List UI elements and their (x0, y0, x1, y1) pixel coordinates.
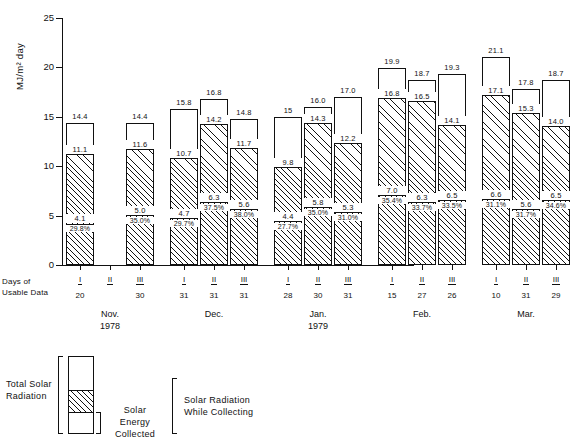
bar-label-total: 18.7 (539, 69, 573, 78)
bar-label-collecting: 17.1 (482, 86, 510, 95)
x-label-days: 31 (512, 291, 540, 300)
bar-label-percent: 35.0% (304, 209, 332, 216)
y-tick-label-20: 20 (18, 61, 54, 72)
bar-Mar-III (542, 80, 570, 265)
bar-label-total: 14.4 (123, 112, 157, 121)
x-label-days: 30 (126, 291, 154, 300)
bar-label-collecting: 11.1 (66, 145, 94, 154)
x-label-days: 20 (66, 291, 94, 300)
bar-label-percent: 31.0% (334, 214, 362, 221)
bar-label-total: 21.1 (479, 46, 513, 55)
bar-Dec-I (170, 109, 198, 265)
bar-Mar-II (512, 89, 540, 265)
x-tick (288, 265, 289, 270)
x-label-period-II: II (96, 275, 124, 284)
bar-label-collected: 6.3 (200, 193, 228, 202)
x-label-period-III: III (438, 275, 466, 284)
bar-segment-energy-collected (409, 202, 435, 264)
legend-hatch-segment (69, 390, 93, 413)
x-tick (214, 265, 215, 270)
bar-label-percent: 38.0% (230, 211, 258, 218)
y-axis-line (62, 18, 63, 265)
bar-label-collected: 4.7 (170, 209, 198, 218)
bar-label-collecting: 14.1 (438, 116, 466, 125)
legend-while-line-2: While Collecting (184, 406, 314, 418)
bar-label-collected: 6.5 (542, 191, 570, 200)
bar-label-percent: 35.4% (378, 197, 406, 204)
bar-label-collected: 6.3 (408, 193, 436, 202)
bar-Dec-II (200, 99, 228, 265)
bar-segment-energy-collected (379, 195, 405, 264)
y-tick-label-0: 0 (18, 259, 54, 270)
x-label-period-I: I (378, 275, 406, 284)
legend: Total Solar Radiation Solar Energy Colle… (0, 350, 431, 442)
x-label-period-III: III (230, 275, 258, 284)
legend-brace-total (58, 356, 63, 434)
bar-label-total: 15.8 (167, 98, 201, 107)
bar-label-collecting: 12.2 (334, 134, 362, 143)
x-label-period-I: I (66, 275, 94, 284)
x-label-period-II: II (408, 275, 436, 284)
bar-label-collecting: 11.7 (230, 139, 258, 148)
legend-total-line-2: Radiation (6, 390, 58, 402)
bar-label-collected: 5.6 (512, 200, 540, 209)
x-label-period-I: I (482, 275, 510, 284)
x-label-month-Mar: Mar. (486, 309, 566, 319)
bar-label-percent: 29.8% (66, 225, 94, 232)
legend-total-label: Total Solar Radiation (6, 378, 58, 402)
x-label-period-III: III (126, 275, 154, 284)
x-label-days: 28 (274, 291, 302, 300)
bar-label-collected: 7.0 (378, 186, 406, 195)
x-tick (348, 265, 349, 270)
x-label-period-I: I (274, 275, 302, 284)
x-label-month-Feb: Feb. (382, 309, 462, 319)
y-tick-label-15: 15 (18, 111, 54, 122)
bar-label-percent: 34.6% (542, 202, 570, 209)
legend-sample-bar (68, 356, 94, 434)
y-tick-20 (56, 67, 62, 68)
bar-label-total: 19.3 (435, 63, 469, 72)
bar-label-collected: 4.1 (66, 214, 94, 223)
bar-label-total: 17.0 (331, 86, 365, 95)
bar-label-total: 16.8 (197, 88, 231, 97)
x-tick (496, 265, 497, 270)
bar-Jan-I (274, 117, 302, 265)
bar-label-total: 19.9 (375, 57, 409, 66)
legend-while-line-1: Solar Radiation (184, 394, 314, 406)
x-label-period-II: II (200, 275, 228, 284)
legend-collected-line-1: Solar (104, 404, 166, 416)
bar-label-collecting: 11.6 (126, 140, 154, 149)
y-tick-15 (56, 117, 62, 118)
bar-Feb-III (438, 74, 466, 265)
bar-label-percent: 27.7% (274, 223, 302, 230)
days-caption-line-2: Usable Data (2, 287, 48, 298)
bar-label-collected: 4.4 (274, 212, 302, 221)
bar-label-collected: 5.6 (230, 200, 258, 209)
bar-label-percent: 31.7% (512, 211, 540, 218)
bar-label-total: 14.4 (63, 112, 97, 121)
y-tick-10 (56, 166, 62, 167)
x-label-days: 15 (378, 291, 406, 300)
bar-label-collected: 5.0 (126, 206, 154, 215)
x-label-days: 31 (200, 291, 228, 300)
bar-segment-energy-collected (483, 199, 509, 264)
legend-collected-line-2: Energy (104, 416, 166, 428)
x-label-period-III: III (542, 275, 570, 284)
legend-while-collecting-label: Solar Radiation While Collecting (184, 394, 314, 418)
y-tick-label-25: 25 (18, 12, 54, 23)
bar-label-percent: 33.7% (408, 204, 436, 211)
x-label-days: 31 (170, 291, 198, 300)
y-tick-label-5: 5 (18, 210, 54, 221)
x-tick (556, 265, 557, 270)
legend-collected-line-3: Collected (104, 428, 166, 440)
x-tick (318, 265, 319, 270)
x-label-period-I: I (170, 275, 198, 284)
x-label-days: 29 (542, 291, 570, 300)
bar-label-collecting: 16.8 (378, 89, 406, 98)
bar-label-total: 16.0 (301, 96, 335, 105)
x-tick (184, 265, 185, 270)
plot-area: 0510152025 14.411.14.129.8%14.411.65.035… (62, 18, 414, 265)
bar-label-collecting: 9.8 (274, 158, 302, 167)
bar-segment-energy-collected (439, 200, 465, 264)
bar-label-percent: 31.1% (482, 201, 510, 208)
